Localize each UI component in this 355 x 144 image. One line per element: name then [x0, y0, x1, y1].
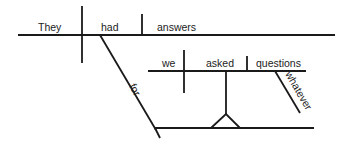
word-clause-modifier: whatever: [283, 68, 315, 112]
word-clause-verb: asked: [206, 57, 234, 69]
word-verb: had: [101, 21, 119, 33]
word-clause-subject: we: [161, 57, 176, 69]
preposition-slant: [100, 35, 156, 130]
sentence-diagram: They had answers for we asked questions …: [0, 0, 355, 144]
preposition-slant-tail: [155, 128, 160, 138]
word-subject: They: [38, 21, 62, 33]
word-clause-object: questions: [256, 57, 301, 69]
pedestal-base: [211, 114, 240, 128]
word-direct-object: answers: [157, 21, 196, 33]
